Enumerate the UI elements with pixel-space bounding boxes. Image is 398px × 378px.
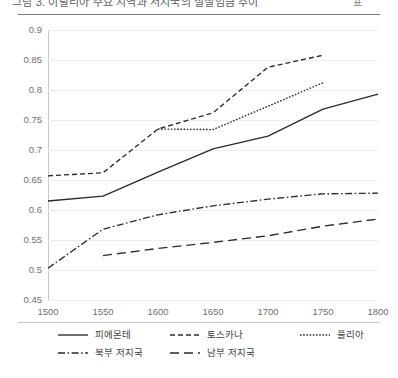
legend-label: 남부 저지국	[207, 348, 255, 358]
legend-item[interactable]: 피에몬테	[18, 326, 148, 344]
legend-line-swatch	[58, 330, 88, 340]
top-divider	[18, 14, 380, 15]
y-tick-label: 0.75	[24, 115, 43, 125]
series-line	[48, 55, 323, 176]
page-title: 그림 3. 이탈리아 주요 지역과 저지국의 실질임금 추이	[12, 0, 259, 9]
legend-divider	[18, 322, 380, 323]
legend-item[interactable]: 풀리아	[278, 326, 380, 344]
title-badge: 표	[353, 0, 362, 9]
legend-label: 토스카나	[207, 330, 243, 340]
legend-item[interactable]: 토스카나	[148, 326, 278, 344]
y-tick-label: 0.65	[24, 175, 43, 185]
legend-line-swatch	[170, 348, 200, 358]
y-tick-label: 0.8	[29, 85, 42, 95]
x-tick-label: 1700	[257, 307, 278, 317]
chart-legend: 피에몬테토스카나풀리아북부 저지국남부 저지국	[18, 326, 380, 362]
clipped-title-strip: 그림 3. 이탈리아 주요 지역과 저지국의 실질임금 추이 표	[0, 0, 398, 11]
y-tick-label: 0.45	[24, 295, 43, 305]
series-line	[48, 193, 378, 268]
gridline	[48, 300, 378, 301]
legend-label: 북부 저지국	[95, 348, 143, 358]
legend-label: 풀리아	[337, 330, 364, 340]
x-tick-label: 1550	[92, 307, 113, 317]
line-chart: 0.450.50.550.60.650.70.750.80.850.9 1500…	[0, 18, 398, 318]
legend-row: 피에몬테토스카나풀리아	[18, 326, 380, 344]
x-tick-label: 1800	[367, 307, 388, 317]
legend-line-swatch	[58, 348, 88, 358]
legend-line-swatch	[300, 330, 330, 340]
series-line	[103, 219, 378, 256]
legend-line-swatch	[170, 330, 200, 340]
legend-label: 피에몬테	[95, 330, 131, 340]
y-tick-label: 0.55	[24, 235, 43, 245]
y-tick-label: 0.85	[24, 55, 43, 65]
y-tick-label: 0.7	[29, 145, 42, 155]
legend-row: 북부 저지국남부 저지국	[18, 344, 380, 362]
legend-item[interactable]: 북부 저지국	[18, 344, 148, 362]
y-tick-label: 0.6	[29, 205, 42, 215]
plot-area: 0.450.50.550.60.650.70.750.80.850.9 1500…	[48, 30, 378, 300]
y-tick-label: 0.9	[29, 25, 42, 35]
legend-item[interactable]: 남부 저지국	[148, 344, 278, 362]
x-tick-label: 1500	[37, 307, 58, 317]
series-lines	[48, 30, 378, 300]
x-tick-label: 1750	[312, 307, 333, 317]
x-tick-label: 1600	[147, 307, 168, 317]
x-tick-label: 1650	[202, 307, 223, 317]
series-line	[48, 94, 378, 201]
y-tick-label: 0.5	[29, 265, 42, 275]
